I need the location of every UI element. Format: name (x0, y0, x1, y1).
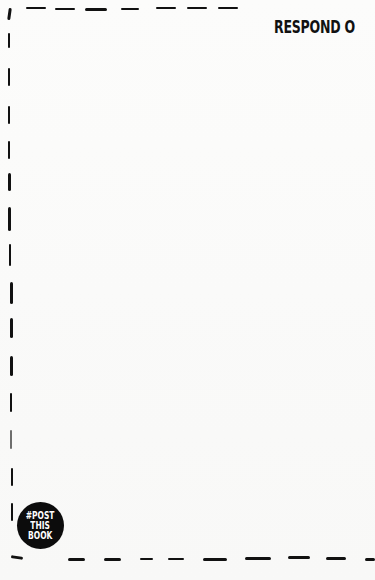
badge-line-3: BOOK (28, 531, 52, 541)
border-dash-bottom (326, 557, 346, 560)
border-dash-top (26, 7, 46, 9)
border-dash-bottom (168, 558, 184, 560)
border-dash-bottom (365, 558, 375, 561)
border-dash-left (10, 282, 13, 304)
book-page: RESPOND O #POST THIS BOOK (0, 0, 375, 580)
border-corner-top-left (7, 8, 12, 20)
border-dash-bottom (245, 557, 271, 560)
border-dash-left (10, 318, 13, 338)
border-dash-left (10, 356, 13, 376)
border-dash-bottom (104, 558, 121, 561)
border-dash-bottom (140, 558, 153, 560)
prompt-heading: RESPOND O (274, 17, 355, 37)
border-dash-left (8, 33, 10, 48)
border-dash-bottom (288, 556, 310, 559)
border-dash-top (121, 8, 139, 10)
border-dash-bottom (68, 558, 85, 561)
border-corner-bottom-left (11, 555, 23, 560)
border-dash-left (11, 468, 13, 486)
border-dash-bottom (203, 558, 227, 561)
post-this-book-badge: #POST THIS BOOK (17, 502, 64, 549)
border-dash-top (85, 8, 107, 11)
border-dash-left (8, 207, 11, 231)
border-dash-left (10, 393, 12, 412)
border-dash-top (218, 7, 238, 9)
border-dash-left (9, 244, 11, 266)
border-dash-left (8, 173, 11, 191)
border-dash-top (55, 8, 75, 10)
border-dash-top (187, 7, 207, 9)
border-dash-left (11, 503, 13, 521)
border-dash-left (10, 430, 12, 449)
border-dash-top (156, 7, 176, 9)
border-dash-left (8, 141, 10, 159)
border-dash-left (8, 68, 10, 86)
border-dash-left (8, 106, 10, 124)
